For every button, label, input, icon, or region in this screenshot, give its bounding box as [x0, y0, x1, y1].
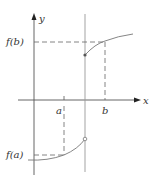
right-curve [85, 34, 133, 55]
b-label: b [102, 105, 108, 116]
a-label: a [56, 105, 62, 116]
left-curve [28, 139, 85, 160]
x-axis-label: x [143, 95, 149, 106]
x-axis-arrow-icon [134, 98, 141, 103]
fa-label: f(a) [5, 149, 24, 160]
open-endpoint-icon [83, 137, 87, 141]
fb-label: f(b) [5, 36, 24, 47]
discontinuity-diagram: y x f(b) f(a) a b [0, 0, 155, 183]
y-axis-arrow-icon [32, 13, 37, 20]
y-axis-label: y [38, 13, 45, 24]
filled-endpoint-icon [83, 53, 86, 56]
